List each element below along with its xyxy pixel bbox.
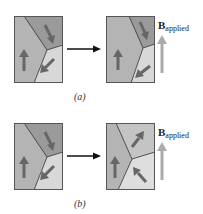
figure-b: Bapplied (b)	[0, 107, 203, 214]
transition-arrow-icon	[66, 151, 102, 161]
domain-panel-after	[106, 16, 155, 83]
figure-a: Bapplied (a)	[0, 0, 203, 107]
domain-panel-after	[106, 123, 155, 190]
field-subscript: applied	[165, 131, 189, 140]
caption-b: (b)	[74, 198, 86, 209]
field-subscript: applied	[165, 24, 189, 33]
domain-panel-before	[14, 123, 63, 190]
field-arrow-icon	[157, 34, 167, 74]
transition-arrow-icon	[66, 44, 102, 54]
field-label: Bapplied	[158, 19, 189, 33]
domain-panel-before	[14, 16, 63, 83]
caption-a: (a)	[74, 91, 86, 102]
field-arrow-icon	[157, 141, 167, 181]
field-label: Bapplied	[158, 126, 189, 140]
